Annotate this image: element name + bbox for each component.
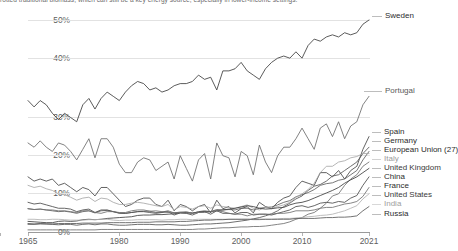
leader-china — [372, 177, 381, 178]
series-label-germany[interactable]: Germany — [384, 137, 417, 145]
leader-germany — [372, 141, 381, 142]
caption-text: rotted traditional biomass, which can st… — [0, 0, 452, 5]
series-line-spain — [28, 137, 369, 213]
series-label-portugal[interactable]: Portugal — [385, 87, 415, 95]
series-label-russia[interactable]: Russia — [384, 210, 408, 218]
x-tick-1965: 1965 — [19, 236, 38, 246]
plot-area — [28, 14, 370, 233]
series-lines — [28, 14, 370, 233]
series-line-portugal — [28, 96, 369, 181]
series-label-european-union[interactable]: European Union (27) — [384, 146, 458, 154]
series-line-italy — [28, 154, 369, 210]
series-label-united-kingdom[interactable]: United Kingdom — [384, 164, 441, 172]
series-line-india — [28, 194, 369, 221]
series-label-india[interactable]: India — [384, 200, 401, 208]
leader-spain — [372, 132, 381, 133]
series-label-italy[interactable]: Italy — [384, 155, 399, 163]
x-tick-2021: 2021 — [360, 236, 379, 246]
series-line-sweden — [28, 20, 369, 122]
clipped-caption: rotted traditional biomass, which can st… — [0, 0, 452, 6]
leader-united-states — [372, 195, 381, 196]
leader-united-kingdom — [372, 168, 381, 169]
leader-russia — [372, 214, 381, 215]
leader-european-union — [372, 150, 381, 151]
x-tick-2010: 2010 — [293, 236, 312, 246]
x-tickmark-1990-shim — [0, 233, 1, 236]
series-label-spain[interactable]: Spain — [384, 128, 404, 136]
leader-sweden — [372, 16, 382, 17]
leader-india — [372, 204, 381, 205]
series-label-china[interactable]: China — [384, 173, 405, 181]
leader-france — [372, 186, 381, 187]
x-tick-1990: 1990 — [171, 236, 190, 246]
series-line-germany — [28, 147, 369, 225]
x-tick-1980: 1980 — [110, 236, 129, 246]
series-label-united-states[interactable]: United States — [384, 191, 432, 199]
series-label-sweden[interactable]: Sweden — [385, 12, 414, 20]
series-label-france[interactable]: France — [384, 182, 409, 190]
x-tick-2000: 2000 — [232, 236, 251, 246]
leader-italy — [372, 159, 381, 160]
